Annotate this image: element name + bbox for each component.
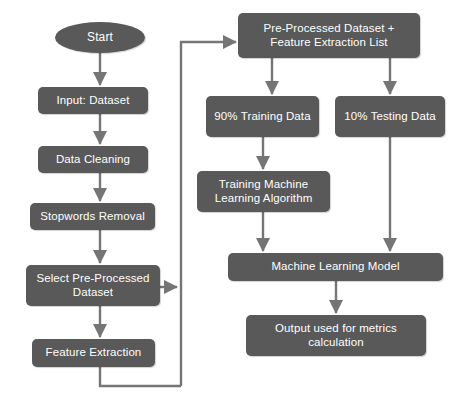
node-select-preprocessed-dataset-label: Select Pre-Processed Dataset <box>30 272 156 299</box>
node-input-dataset-label: Input: Dataset <box>42 94 144 108</box>
node-input-dataset[interactable]: Input: Dataset <box>38 87 148 114</box>
node-output-metrics-label: Output used for metrics calculation <box>250 322 422 349</box>
edge-loopbus-to-preprocessed <box>181 42 236 386</box>
node-training-data[interactable]: 90% Training Data <box>206 96 319 137</box>
node-start-label: Start <box>59 30 141 44</box>
flowchart-diagram: Start Input: Dataset Data Cleaning Stopw… <box>0 0 459 412</box>
node-machine-learning-model[interactable]: Machine Learning Model <box>228 253 443 281</box>
node-feature-extraction-label: Feature Extraction <box>36 346 151 360</box>
node-preprocessed-dataset-plus-list-label: Pre-Processed Dataset + Feature Extracti… <box>242 22 416 49</box>
node-testing-data[interactable]: 10% Testing Data <box>335 96 445 137</box>
node-stopwords-removal-label: Stopwords Removal <box>34 210 151 224</box>
node-select-preprocessed-dataset[interactable]: Select Pre-Processed Dataset <box>26 265 160 306</box>
node-training-data-label: 90% Training Data <box>210 110 315 124</box>
node-training-ml-algorithm[interactable]: Training Machine Learning Algorithm <box>197 171 330 212</box>
node-training-ml-algorithm-label: Training Machine Learning Algorithm <box>201 178 326 205</box>
node-start[interactable]: Start <box>55 22 145 53</box>
node-machine-learning-model-label: Machine Learning Model <box>232 260 439 274</box>
node-output-metrics[interactable]: Output used for metrics calculation <box>246 315 426 356</box>
node-data-cleaning[interactable]: Data Cleaning <box>38 146 148 173</box>
edge-feature-to-loopbus <box>100 367 181 386</box>
node-data-cleaning-label: Data Cleaning <box>42 153 144 167</box>
node-preprocessed-dataset-plus-list[interactable]: Pre-Processed Dataset + Feature Extracti… <box>238 13 420 58</box>
node-stopwords-removal[interactable]: Stopwords Removal <box>30 203 155 230</box>
node-feature-extraction[interactable]: Feature Extraction <box>32 339 155 367</box>
node-testing-data-label: 10% Testing Data <box>339 110 441 124</box>
